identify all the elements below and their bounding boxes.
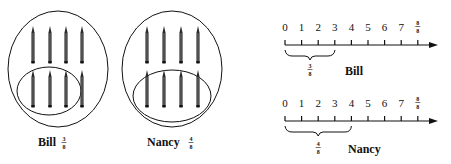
bill-line-label: Bill bbox=[345, 64, 364, 78]
tick-label: 0 bbox=[282, 21, 288, 33]
bill-number-line: 0 1 2 3 4 5 6 7 8 8 3 8 Bill bbox=[282, 20, 438, 78]
tick-label: 7 bbox=[398, 21, 404, 33]
tick-label: 0 bbox=[282, 97, 288, 109]
pencil-icon bbox=[145, 26, 199, 108]
arrow-icon bbox=[429, 118, 438, 124]
nancy-number-line: 0 1 2 3 4 5 6 7 8 8 4 8 Nancy bbox=[282, 96, 438, 156]
tick-label: 2 bbox=[315, 97, 321, 109]
bracket-fraction-numerator: 3 bbox=[309, 63, 312, 69]
tick-label: 4 bbox=[349, 21, 355, 33]
tick-label: 5 bbox=[365, 97, 371, 109]
bracket bbox=[285, 126, 351, 136]
nancy-set-fraction-denominator: 8 bbox=[190, 144, 193, 150]
nancy-set-fraction-numerator: 4 bbox=[190, 136, 193, 142]
nancy-outer-ellipse bbox=[122, 11, 222, 127]
bill-pencil-set: Bill 3 8 bbox=[8, 11, 108, 150]
bill-set-label: Bill bbox=[38, 135, 57, 149]
bill-set-fraction-denominator: 8 bbox=[63, 144, 66, 150]
nancy-line-label: Nancy bbox=[348, 142, 381, 156]
pencil-icon bbox=[31, 26, 83, 108]
end-label-denominator: 8 bbox=[416, 28, 419, 34]
bracket bbox=[285, 50, 335, 60]
bracket-fraction-denominator: 8 bbox=[309, 71, 312, 77]
tick-label: 1 bbox=[299, 21, 305, 33]
tick-label: 7 bbox=[398, 97, 404, 109]
tick-label: 1 bbox=[299, 97, 305, 109]
bracket-fraction-numerator: 4 bbox=[317, 141, 320, 147]
tick-label: 3 bbox=[332, 21, 338, 33]
arrow-icon bbox=[429, 42, 438, 48]
bracket-fraction-denominator: 8 bbox=[317, 149, 320, 155]
tick-label: 6 bbox=[382, 21, 388, 33]
bill-outer-ellipse bbox=[8, 11, 108, 127]
tick-label: 4 bbox=[349, 97, 355, 109]
end-label-numerator: 8 bbox=[416, 20, 419, 26]
nancy-set-label: Nancy bbox=[147, 135, 180, 149]
tick-label: 6 bbox=[382, 97, 388, 109]
tick-label: 5 bbox=[365, 21, 371, 33]
end-label-denominator: 8 bbox=[416, 104, 419, 110]
tick-label: 2 bbox=[315, 21, 321, 33]
nancy-pencil-set: Nancy 4 8 bbox=[122, 11, 222, 150]
tick-label: 3 bbox=[332, 97, 338, 109]
fraction-diagram: Bill 3 8 Nancy 4 8 0 1 2 bbox=[0, 0, 451, 164]
bill-set-fraction-numerator: 3 bbox=[63, 136, 66, 142]
end-label-numerator: 8 bbox=[416, 96, 419, 102]
